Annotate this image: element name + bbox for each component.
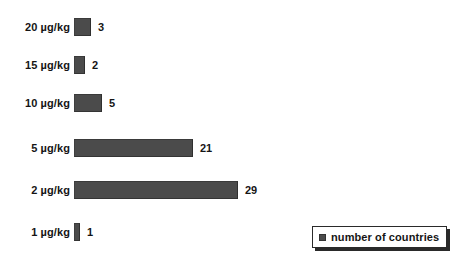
bar-value-label: 21 bbox=[200, 139, 212, 157]
bar-value-label: 29 bbox=[245, 181, 257, 199]
bar-row: 5 µg/kg 21 bbox=[0, 139, 468, 157]
category-label: 1 µg/kg bbox=[0, 223, 70, 241]
bar-row: 10 µg/kg 5 bbox=[0, 94, 468, 112]
chart-legend: number of countries bbox=[312, 226, 447, 248]
category-label: 20 µg/kg bbox=[0, 18, 70, 36]
bar-value-label: 3 bbox=[98, 18, 104, 36]
category-label: 2 µg/kg bbox=[0, 181, 70, 199]
bar-row: 15 µg/kg 2 bbox=[0, 56, 468, 74]
bar-segment bbox=[74, 223, 80, 241]
bar-value-label: 2 bbox=[92, 56, 98, 74]
bar-segment bbox=[74, 94, 102, 112]
bar-row: 2 µg/kg 29 bbox=[0, 181, 468, 199]
bar-value-label: 5 bbox=[109, 94, 115, 112]
bar-segment bbox=[74, 18, 91, 36]
bar-row: 20 µg/kg 3 bbox=[0, 18, 468, 36]
bar-value-label: 1 bbox=[87, 223, 93, 241]
category-label: 15 µg/kg bbox=[0, 56, 70, 74]
category-label: 10 µg/kg bbox=[0, 94, 70, 112]
bar-segment bbox=[74, 139, 193, 157]
horizontal-bar-chart: 20 µg/kg 3 15 µg/kg 2 10 µg/kg 5 5 µg/kg… bbox=[0, 0, 468, 264]
bar-segment bbox=[74, 56, 85, 74]
legend-label: number of countries bbox=[331, 231, 439, 243]
legend-swatch-icon bbox=[319, 234, 326, 241]
category-label: 5 µg/kg bbox=[0, 139, 70, 157]
bar-segment bbox=[74, 181, 238, 199]
